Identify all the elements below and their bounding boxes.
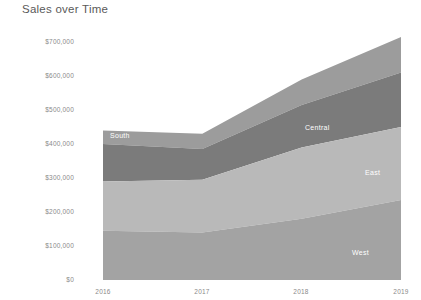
series-label-central: Central <box>305 124 330 131</box>
x-axis-tick-2016: 2016 <box>83 288 123 295</box>
x-axis-tick-2017: 2017 <box>182 288 222 295</box>
series-label-west: West <box>352 249 369 256</box>
series-label-south: South <box>110 132 130 139</box>
series-label-east: East <box>365 169 380 176</box>
x-axis-tick-2019: 2019 <box>381 288 421 295</box>
chart-container: Sales over Time $700,000 $600,000 $500,0… <box>0 0 421 300</box>
x-axis-tick-2018: 2018 <box>281 288 321 295</box>
